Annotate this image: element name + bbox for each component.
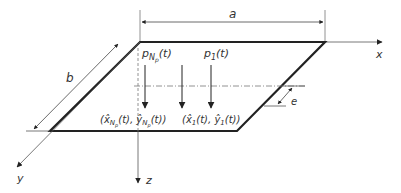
z-axis: z [138, 131, 152, 187]
label-a: a [229, 7, 236, 21]
x-axis: x [325, 42, 383, 61]
label-p-1: p1(t) [203, 47, 229, 62]
dimension-a: a [140, 7, 325, 42]
label-x: x [375, 48, 383, 61]
label-b: b [66, 71, 74, 85]
label-y: y [16, 172, 24, 185]
label-pos-np: (x̂Np(t), ŷNp(t)) [100, 114, 166, 129]
label-pos-1: (x̂1(t), ŷ1(t)) [182, 114, 240, 127]
label-e: e [291, 96, 297, 107]
label-p-np: pNp(t) [141, 47, 172, 64]
plate-diagram: a x y b z e pNp(t) p1(t) [0, 0, 401, 193]
load-arrows [145, 65, 211, 108]
label-z: z [145, 174, 152, 187]
